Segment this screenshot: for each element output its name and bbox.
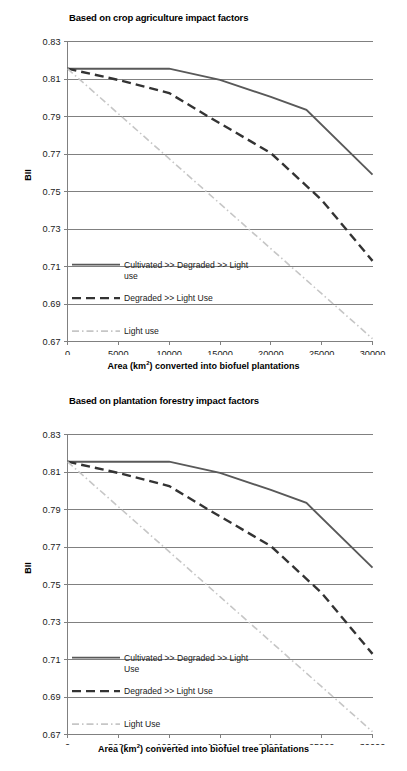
legend-item-label-continued: Use [124,664,140,674]
y-axis-tick-label: 0.83 [43,37,61,47]
y-axis-tick-label: 0.73 [43,617,61,627]
y-axis-tick-label: 0.75 [43,580,61,590]
y-axis-tick-label: 0.67 [43,337,61,347]
legend-item-label-continued: use [124,271,138,281]
x-axis-tick-label: 25000 [309,349,335,356]
figure-page: Based on crop agriculture impact factors… [0,0,407,771]
data-series-line [68,462,373,732]
x-axis-tick-label: 5000 [108,349,128,356]
y-axis-tick-label: 0.71 [43,655,61,665]
legend-item-label: Cultivated >> Degraded >> Light [124,260,249,270]
legend-item-label: Light Use [124,719,161,729]
x-axis-label: Area (km2) converted into biofuel planta… [0,360,407,371]
y-axis-tick-label: 0.71 [43,262,61,272]
data-series-line [68,69,373,339]
y-axis-tick-label: 0.83 [43,430,61,440]
x-axis-tick-label: 10000 [156,349,182,356]
data-series-line [68,462,373,568]
y-axis-tick-label: 0.81 [43,74,61,84]
x-axis-label: Area (km2) converted into biofuel tree p… [0,743,407,754]
data-series-line [68,462,373,654]
y-axis-tick-label: 0.77 [43,542,61,552]
y-axis-tick-label: 0.77 [43,149,61,159]
x-axis-tick-label: 30000 [360,349,386,356]
legend-item-label: Cultivated >> Degraded >> Light [124,653,249,663]
x-axis-tick-label: 20000 [258,349,284,356]
y-axis-tick-label: 0.73 [43,224,61,234]
legend-item-label: Light use [124,326,159,336]
chart-panel-plantation-forestry: Based on plantation forestry impact fact… [0,385,407,771]
y-axis-tick-label: 0.81 [43,467,61,477]
y-axis-tick-label: 0.69 [43,692,61,702]
y-axis-tick-label: 0.79 [43,505,61,515]
y-axis-tick-label: 0.75 [43,187,61,197]
data-series-line [68,69,373,261]
data-series-line [68,69,373,175]
chart-plot-area: 0.670.690.710.730.750.770.790.810.830500… [0,393,407,745]
chart-plot-area: 0.670.690.710.730.750.770.790.810.830500… [0,0,407,355]
chart-panel-crop-agriculture: Based on crop agriculture impact factors… [0,0,407,385]
y-axis-tick-label: 0.79 [43,112,61,122]
y-axis-tick-label: 0.67 [43,730,61,740]
x-axis-tick-label: 15000 [207,349,233,356]
x-axis-tick-label: 0 [65,349,70,356]
legend-item-label: Degraded >> Light Use [124,686,213,696]
legend-item-label: Degraded >> Light Use [124,293,213,303]
y-axis-tick-label: 0.69 [43,299,61,309]
